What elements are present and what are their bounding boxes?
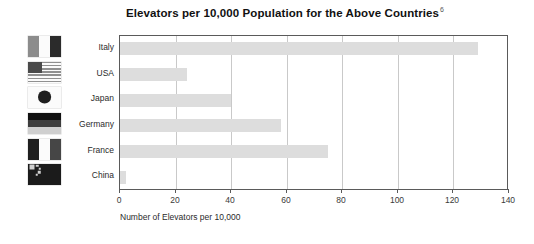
x-tick — [119, 189, 120, 193]
x-axis-line — [119, 189, 508, 190]
x-tick-label: 0 — [117, 195, 122, 205]
flag-band — [28, 139, 39, 160]
gridline — [453, 36, 454, 189]
flag-star — [38, 171, 41, 174]
x-tick — [230, 189, 231, 193]
plot-area — [119, 35, 508, 189]
flag-band — [39, 36, 50, 57]
x-tick-label: 40 — [225, 195, 234, 205]
x-tick — [508, 189, 509, 193]
flag-disc — [38, 90, 52, 103]
x-axis-title: Number of Elevators per 10,000 — [120, 212, 240, 222]
x-tick — [452, 189, 453, 193]
gridline — [398, 36, 399, 189]
gridline — [342, 36, 343, 189]
x-tick-label: 20 — [170, 195, 179, 205]
x-tick — [175, 189, 176, 193]
bar-japan[interactable] — [120, 94, 231, 107]
flag-france-icon — [28, 139, 61, 160]
flag-italy-icon — [28, 36, 61, 57]
category-label-usa: USA — [97, 68, 114, 78]
flag-band — [28, 120, 61, 127]
flag-china-icon — [28, 164, 61, 185]
flag-band — [39, 139, 50, 160]
x-tick-label: 60 — [281, 195, 290, 205]
flag-star — [35, 173, 38, 176]
chart-title-text: Elevators per 10,000 Population for the … — [126, 7, 439, 19]
bar-usa[interactable] — [120, 68, 187, 81]
bar-germany[interactable] — [120, 119, 281, 132]
category-label-italy: Italy — [98, 42, 114, 52]
category-axis-labels: ItalyUSAJapanGermanyFranceChina — [60, 35, 114, 189]
category-label-france: France — [88, 145, 114, 155]
flag-band — [28, 36, 39, 57]
x-tick-label: 120 — [445, 195, 459, 205]
x-tick-label: 140 — [501, 195, 515, 205]
x-tick — [397, 189, 398, 193]
bar-italy[interactable] — [120, 42, 478, 55]
chart-title: Elevators per 10,000 Population for the … — [126, 6, 444, 19]
chart-title-footnote: 6 — [440, 6, 444, 13]
flag-canton — [28, 62, 42, 73]
gridline — [231, 36, 232, 189]
flag-star — [38, 167, 41, 170]
flag-band — [28, 127, 61, 134]
flag-germany-icon — [28, 113, 61, 134]
category-label-china: China — [92, 170, 114, 180]
x-tick-label: 80 — [336, 195, 345, 205]
bar-france[interactable] — [120, 145, 328, 158]
flag-stripe — [28, 78, 61, 80]
flag-stripe — [28, 81, 61, 83]
x-tick-label: 100 — [390, 195, 404, 205]
gridline — [176, 36, 177, 189]
gridline — [287, 36, 288, 189]
x-tick — [286, 189, 287, 193]
flag-stripe — [28, 74, 61, 76]
category-label-japan: Japan — [91, 93, 114, 103]
flag-band — [28, 113, 61, 120]
bar-china[interactable] — [120, 171, 126, 184]
x-tick — [341, 189, 342, 193]
flag-usa-icon — [28, 62, 61, 83]
flag-japan-icon — [28, 87, 61, 108]
flag-star — [29, 165, 34, 170]
category-label-germany: Germany — [79, 119, 114, 129]
